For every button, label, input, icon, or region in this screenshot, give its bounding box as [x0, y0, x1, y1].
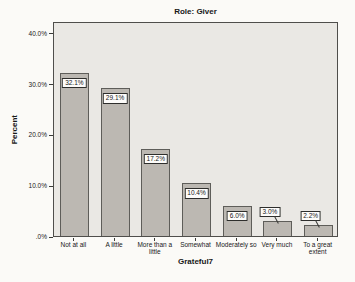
x-category-label: Not at all: [50, 241, 96, 248]
y-axis-title-text: Percent: [10, 115, 19, 144]
y-tick-mark: [49, 237, 53, 238]
bar: [101, 88, 130, 236]
y-tick-label: 20.0%: [0, 132, 47, 139]
x-category-label: A little: [91, 241, 137, 248]
x-category-label: Somewhat: [173, 241, 219, 248]
bar-value-label: 2.2%: [300, 211, 321, 222]
x-axis-title: Grateful7: [53, 258, 338, 266]
bar-value-label: 29.1%: [103, 93, 127, 104]
x-category-label: Very much: [254, 241, 300, 248]
bar-value-label: 32.1%: [62, 78, 86, 89]
bar-value-label: 6.0%: [227, 211, 248, 222]
plot-area: 32.1%29.1%17.2%10.4%6.0%3.0%2.2%: [53, 22, 338, 237]
bar-value-label: 3.0%: [260, 207, 281, 218]
chart-title: Role: Giver: [53, 8, 338, 16]
bar-value-label: 17.2%: [144, 154, 168, 165]
y-tick-mark: [49, 33, 53, 34]
x-category-label: To a great extent: [295, 241, 341, 255]
bar: [60, 73, 89, 236]
y-tick-mark: [49, 186, 53, 187]
y-tick-mark: [49, 135, 53, 136]
y-tick-label: 30.0%: [0, 82, 47, 89]
spss-output-canvas: { "chart_data": { "type": "bar", "title"…: [0, 0, 355, 282]
y-tick-label: 40.0%: [0, 31, 47, 38]
x-category-label: Moderately so: [213, 241, 259, 248]
y-tick-label: .0%: [0, 234, 47, 241]
bar-value-label: 10.4%: [184, 188, 208, 199]
x-category-label: More than a little: [132, 241, 178, 255]
y-tick-label: 10.0%: [0, 183, 47, 190]
y-tick-mark: [49, 84, 53, 85]
y-axis-title: Percent: [8, 22, 20, 237]
